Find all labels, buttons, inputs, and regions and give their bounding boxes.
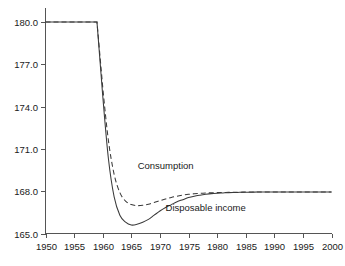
series-annotation-label: Disposable income [166,202,246,213]
x-tick-label: 1990 [264,241,285,252]
y-tick-label: 174.0 [14,102,38,113]
y-tick-group [41,23,46,235]
line-chart: 165.0168.0171.0174.0177.0180.0 195019551… [0,0,345,266]
y-tick-label: 165.0 [14,229,38,240]
x-tick-label: 1995 [293,241,314,252]
y-tick-label: 168.0 [14,186,38,197]
y-tick-label: 171.0 [14,144,38,155]
y-tick-label-group: 165.0168.0171.0174.0177.0180.0 [14,17,38,240]
x-axis: 1950195519601965197019751980198519901995… [36,234,343,253]
x-tick-label: 1960 [93,241,114,252]
y-tick-label: 180.0 [14,17,38,28]
chart-canvas: 165.0168.0171.0174.0177.0180.0 195019551… [0,0,345,266]
series-group [46,22,332,225]
x-tick-label: 1965 [121,241,142,252]
series-annotation-label: Consumption [138,160,194,171]
x-tick-label: 1980 [207,241,228,252]
x-tick-label: 1955 [64,241,85,252]
x-tick-label: 2000 [322,241,343,252]
x-tick-group [47,234,333,239]
series-annotation-group: ConsumptionDisposable income [138,160,246,213]
x-tick-label: 1970 [150,241,171,252]
series-line-consumption [46,22,332,206]
x-tick-label: 1950 [36,241,57,252]
x-tick-label-group: 1950195519601965197019751980198519901995… [36,241,343,252]
x-tick-label: 1985 [236,241,257,252]
y-axis: 165.0168.0171.0174.0177.0180.0 [14,8,45,240]
y-tick-label: 177.0 [14,59,38,70]
x-tick-label: 1975 [179,241,200,252]
